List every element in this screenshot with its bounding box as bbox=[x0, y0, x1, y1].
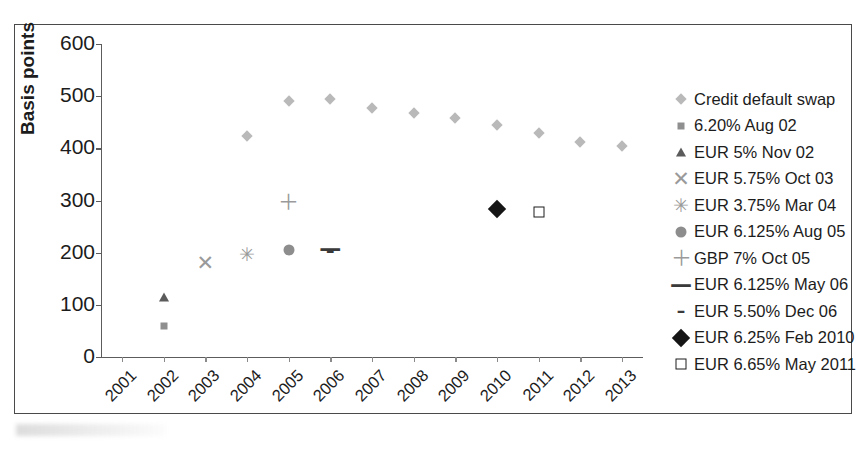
data-point-marker bbox=[491, 119, 502, 130]
data-point-marker bbox=[408, 108, 419, 119]
legend-item-label: EUR 6.65% May 2011 bbox=[694, 355, 856, 374]
legend-item[interactable]: EUR 6.125% Aug 05 bbox=[668, 219, 848, 246]
y-tick-label: 0 bbox=[35, 344, 95, 368]
data-point-marker bbox=[241, 130, 252, 141]
legend-marker-dash-short-icon: – bbox=[668, 298, 694, 324]
y-tick-mark bbox=[96, 44, 101, 45]
legend-item-label: EUR 6.25% Feb 2010 bbox=[694, 328, 855, 347]
legend-marker-diamond-small-icon bbox=[668, 86, 694, 112]
y-tick-label: 100 bbox=[35, 292, 95, 316]
x-tick-mark bbox=[539, 357, 540, 362]
y-tick-labels: 0100200300400500600 bbox=[35, 44, 95, 357]
y-tick-label: 300 bbox=[35, 188, 95, 212]
y-tick-label: 500 bbox=[35, 83, 95, 107]
chart-figure: Basis points 0100200300400500600 2001200… bbox=[0, 0, 867, 451]
data-point-marker bbox=[616, 140, 627, 151]
legend-marker-plus-icon: ＋ bbox=[668, 245, 694, 271]
x-tick-mark bbox=[372, 357, 373, 362]
legend-item[interactable]: Credit default swap bbox=[668, 86, 848, 113]
x-tick-mark bbox=[455, 357, 456, 362]
y-tick-mark bbox=[96, 253, 101, 254]
x-tick-mark bbox=[164, 357, 165, 362]
chart-legend: Credit default swap6.20% Aug 02EUR 5% No… bbox=[668, 86, 848, 378]
legend-marker-diamond-black-icon bbox=[668, 325, 694, 351]
plot-area: 0100200300400500600 20012002200320042005… bbox=[101, 44, 643, 357]
y-tick-label: 400 bbox=[35, 135, 95, 159]
legend-item[interactable]: ✕EUR 5.75% Oct 03 bbox=[668, 166, 848, 193]
data-point-marker bbox=[488, 200, 506, 218]
data-point-marker: ✳ bbox=[239, 244, 255, 263]
legend-item[interactable]: ＋GBP 7% Oct 05 bbox=[668, 245, 848, 272]
legend-item[interactable]: EUR 5% Nov 02 bbox=[668, 139, 848, 166]
data-point-marker bbox=[325, 94, 336, 105]
legend-item-label: EUR 6.125% Aug 05 bbox=[694, 222, 845, 241]
legend-item-label: EUR 6.125% May 06 bbox=[694, 275, 848, 294]
legend-item-label: GBP 7% Oct 05 bbox=[694, 249, 810, 268]
legend-item[interactable]: EUR 6.25% Feb 2010 bbox=[668, 325, 848, 352]
x-tick-mark bbox=[497, 357, 498, 362]
x-tick-mark bbox=[580, 357, 581, 362]
y-tick-mark bbox=[96, 201, 101, 202]
legend-item-label: EUR 5% Nov 02 bbox=[694, 143, 814, 162]
legend-item-label: EUR 3.75% Mar 04 bbox=[694, 196, 836, 215]
data-point-marker bbox=[533, 206, 544, 217]
legend-marker-x-icon: ✕ bbox=[668, 166, 694, 192]
x-tick-mark bbox=[330, 357, 331, 362]
legend-marker-star-icon: ✳ bbox=[668, 192, 694, 218]
data-point-marker: – bbox=[326, 243, 335, 260]
data-point-marker bbox=[366, 102, 377, 113]
y-tick-mark bbox=[96, 357, 101, 358]
legend-item[interactable]: —EUR 6.125% May 06 bbox=[668, 272, 848, 299]
data-point-marker bbox=[283, 245, 294, 256]
legend-item[interactable]: –EUR 5.50% Dec 06 bbox=[668, 298, 848, 325]
data-point-marker: ✕ bbox=[196, 253, 214, 274]
legend-marker-square-open-icon bbox=[668, 351, 694, 377]
legend-item-label: 6.20% Aug 02 bbox=[694, 116, 797, 135]
legend-item[interactable]: ✳EUR 3.75% Mar 04 bbox=[668, 192, 848, 219]
x-tick-mark bbox=[205, 357, 206, 362]
y-tick-mark bbox=[96, 96, 101, 97]
x-tick-mark bbox=[414, 357, 415, 362]
y-axis-line bbox=[101, 44, 102, 357]
x-tick-mark bbox=[289, 357, 290, 362]
page-artifact bbox=[16, 424, 166, 436]
legend-marker-triangle-icon bbox=[668, 139, 694, 165]
x-tick-mark bbox=[122, 357, 123, 362]
data-point-marker bbox=[160, 322, 167, 329]
legend-item-label: EUR 5.50% Dec 06 bbox=[694, 302, 837, 321]
legend-item[interactable]: 6.20% Aug 02 bbox=[668, 113, 848, 140]
data-point-marker bbox=[533, 128, 544, 139]
legend-marker-dash-long-icon: — bbox=[668, 272, 694, 298]
y-tick-label: 200 bbox=[35, 240, 95, 264]
legend-marker-square-small-icon bbox=[668, 113, 694, 139]
y-tick-mark bbox=[96, 148, 101, 149]
legend-marker-circle-icon bbox=[668, 219, 694, 245]
data-point-marker bbox=[450, 112, 461, 123]
legend-item[interactable]: EUR 6.65% May 2011 bbox=[668, 351, 848, 378]
data-point-marker bbox=[575, 136, 586, 147]
data-point-marker bbox=[159, 293, 169, 302]
x-tick-mark bbox=[622, 357, 623, 362]
y-tick-mark bbox=[96, 305, 101, 306]
y-tick-label: 600 bbox=[35, 31, 95, 55]
x-tick-mark bbox=[247, 357, 248, 362]
data-point-marker: ＋ bbox=[278, 191, 299, 212]
data-point-marker bbox=[283, 95, 294, 106]
legend-item-label: EUR 5.75% Oct 03 bbox=[694, 169, 833, 188]
legend-item-label: Credit default swap bbox=[694, 90, 835, 109]
